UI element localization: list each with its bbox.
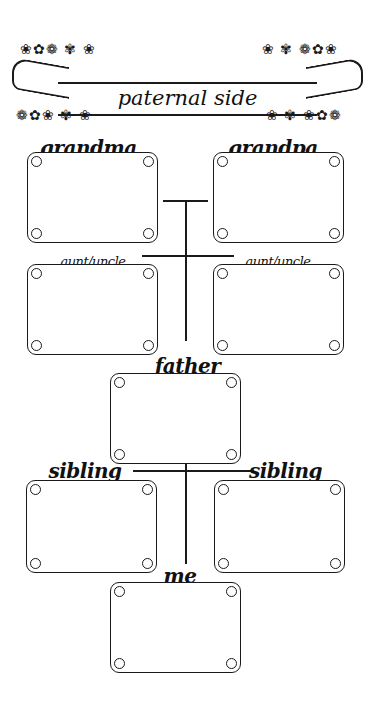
connector-father-stem <box>185 462 187 564</box>
corner-scroll-icon <box>143 268 154 279</box>
corner-scroll-icon <box>114 658 125 669</box>
corner-scroll-icon <box>226 377 237 388</box>
corner-scroll-icon <box>30 558 41 569</box>
corner-scroll-icon <box>226 658 237 669</box>
corner-scroll-icon <box>31 340 42 351</box>
corner-scroll-icon <box>329 228 340 239</box>
corner-scroll-icon <box>31 268 42 279</box>
corner-scroll-icon <box>143 156 154 167</box>
corner-scroll-icon <box>329 156 340 167</box>
photo-frame-father[interactable] <box>110 373 241 464</box>
corner-scroll-icon <box>217 228 228 239</box>
corner-scroll-icon <box>330 558 341 569</box>
floral-ornament-left-top: ❀✿❁ ✾ ❀ <box>20 42 96 56</box>
corner-scroll-icon <box>31 156 42 167</box>
label-sibling-right: sibling <box>248 461 323 481</box>
corner-scroll-icon <box>142 484 153 495</box>
floral-ornament-right-top: ❀ ✾ ❁✿❀ <box>262 42 338 56</box>
page-title: paternal side <box>58 84 317 112</box>
corner-scroll-icon <box>226 586 237 597</box>
corner-scroll-icon <box>330 484 341 495</box>
corner-scroll-icon <box>30 484 41 495</box>
corner-scroll-icon <box>217 156 228 167</box>
corner-scroll-icon <box>218 558 229 569</box>
corner-scroll-icon <box>217 340 228 351</box>
corner-scroll-icon <box>218 484 229 495</box>
connector-grandparents-stem <box>185 200 187 341</box>
photo-frame-aunt-uncle-left[interactable] <box>27 264 158 355</box>
corner-scroll-icon <box>329 340 340 351</box>
corner-scroll-icon <box>31 228 42 239</box>
corner-scroll-icon <box>217 268 228 279</box>
connector-siblings <box>133 470 251 472</box>
corner-scroll-icon <box>114 586 125 597</box>
photo-frame-grandma[interactable] <box>27 152 158 243</box>
photo-frame-sibling-left[interactable] <box>26 480 157 573</box>
corner-scroll-icon <box>143 228 154 239</box>
label-sibling-left: sibling <box>40 461 130 481</box>
corner-scroll-icon <box>226 449 237 460</box>
photo-frame-aunt-uncle-right[interactable] <box>213 264 344 355</box>
photo-frame-sibling-right[interactable] <box>214 480 345 573</box>
photo-frame-grandpa[interactable] <box>213 152 344 243</box>
connector-aunts-uncles <box>142 255 234 257</box>
photo-frame-me[interactable] <box>110 582 241 673</box>
corner-scroll-icon <box>114 377 125 388</box>
corner-scroll-icon <box>143 340 154 351</box>
corner-scroll-icon <box>329 268 340 279</box>
